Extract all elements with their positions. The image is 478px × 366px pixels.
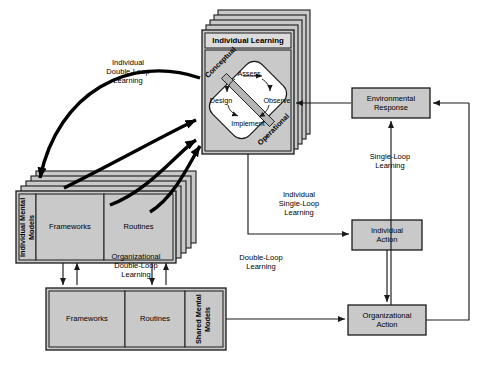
diagram-vector-layer: [0, 0, 478, 366]
diagram-canvas: Individual Learning Assess Observe Imple…: [0, 0, 478, 366]
cycle-node-design: Design: [200, 95, 242, 105]
individual-learning-header: Individual Learning: [205, 33, 291, 48]
edge-label-double-loop: Double-Loop Learning: [215, 253, 307, 271]
cycle-node-assess: Assess: [228, 68, 270, 78]
edge-label-single-loop: Single-Loop Learning: [343, 152, 437, 170]
edge-label-individual-double-loop: Individual Double-Loop Learning: [78, 58, 178, 86]
individual-mental-models-label: Individual Mental Models: [19, 194, 36, 260]
cycle-node-observe: Observe: [256, 95, 298, 105]
edge-label-individual-single-loop: Individual Single-Loop Learning: [252, 190, 346, 218]
organizational-action-box: [348, 305, 426, 335]
individual-action-box: [352, 220, 422, 250]
environmental-response-box: [352, 88, 430, 118]
edge-label-organizational-double-loop: Organizational Double-Loop Learning: [81, 252, 191, 280]
shared-mental-models-label: Shared Mental Models: [185, 291, 223, 347]
